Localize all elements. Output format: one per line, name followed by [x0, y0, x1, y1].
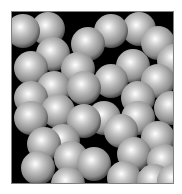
sphere-packing-render: [11, 11, 174, 184]
spheres-group: [11, 12, 174, 184]
sphere-canvas: [11, 11, 174, 184]
sphere: [21, 151, 55, 184]
sphere: [67, 71, 101, 105]
